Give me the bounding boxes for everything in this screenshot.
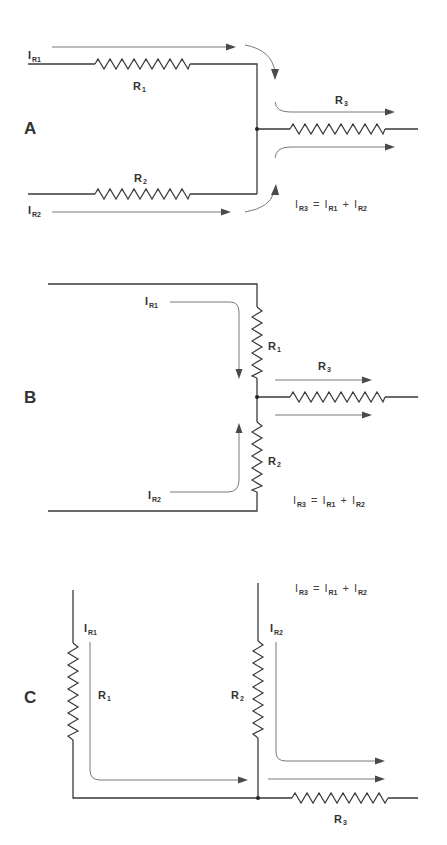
diagram-a-flow-r3-lower [275, 147, 385, 158]
diagram-c-resistor-r2 [253, 641, 263, 738]
diagram-b-current-i1-label: IR1 [145, 295, 158, 309]
diagram-a-r3-label: R3 [335, 94, 348, 107]
diagram-c: C IR3=IR1+IR2 IR1 IR2 R1 R2 R3 [24, 582, 418, 826]
diagram-b-r1-label: R1 [268, 340, 281, 353]
diagram-c-flow-i2 [276, 642, 375, 761]
diagram-c-resistor-r3 [292, 793, 388, 803]
diagram-c-r3-label: R3 [334, 813, 347, 826]
diagram-a-arrowhead [385, 109, 395, 116]
diagram-b-resistor-r3 [290, 392, 385, 402]
diagram-a-flow-r3-upper [275, 102, 385, 112]
diagram-a-arrowhead [226, 44, 236, 51]
diagram-b-resistor-r1 [252, 307, 262, 378]
diagram-c-current-i2-label: IR2 [270, 622, 283, 636]
diagram-b-equation: IR3=IR1+IR2 [293, 494, 365, 508]
diagram-a-resistor-r1 [95, 59, 190, 69]
diagram-a-equation: IR3=IR1+IR2 [295, 198, 367, 212]
diagram-b-junction-node [255, 395, 259, 399]
diagram-b-top-wire [48, 284, 257, 511]
diagram-c-r2-label: R2 [231, 689, 244, 702]
diagram-b-arrowhead [362, 377, 372, 384]
diagram-c-arrowhead [238, 777, 248, 784]
diagram-b-arrowhead [236, 369, 243, 379]
diagram-c-flow-i1 [90, 642, 238, 780]
diagram-a-resistor-r2 [95, 189, 190, 199]
diagram-c-equation: IR3=IR1+IR2 [295, 582, 367, 596]
diagram-a-label: A [24, 119, 36, 138]
diagram-b: B IR1 R1 R3 R2 IR2 IR3=IR1+IR2 [24, 284, 418, 511]
diagram-b-arrowhead [362, 412, 372, 419]
diagram-a-flow-i1-curve [245, 45, 275, 72]
diagram-a-resistor-r3 [290, 124, 385, 134]
diagram-c-middle-wire [258, 583, 418, 798]
diagram-c-current-i1-label: IR1 [84, 622, 97, 636]
diagram-a-flow-i2-curve [245, 192, 274, 212]
diagram-b-r2-label: R2 [268, 455, 281, 468]
diagram-a: A IR1 R1 R2 IR2 [24, 44, 418, 219]
diagram-b-flow-i2 [170, 432, 239, 492]
diagram-c-junction-node [256, 796, 260, 800]
circuit-diagrams: A IR1 R1 R2 IR2 [0, 0, 447, 845]
diagram-a-r1-label: R1 [133, 80, 146, 93]
diagram-a-top-wire [28, 64, 257, 194]
diagram-c-resistor-r1 [68, 643, 78, 740]
diagram-c-r1-label: R1 [98, 689, 111, 702]
diagram-b-arrowhead [236, 423, 243, 433]
diagram-c-arrowhead [375, 776, 385, 783]
diagram-a-junction-node [255, 127, 259, 131]
diagram-c-arrowhead [375, 758, 385, 765]
diagram-a-arrowhead [221, 209, 231, 216]
diagram-b-r3-label: R3 [318, 360, 331, 373]
diagram-a-current-i1-label: IR1 [28, 49, 41, 63]
diagram-a-arrowhead [385, 144, 395, 151]
diagram-b-flow-i1 [170, 302, 239, 370]
diagram-a-r2-label: R2 [134, 172, 147, 185]
diagram-a-arrowhead [271, 184, 279, 195]
diagram-a-current-i2-label: IR2 [28, 204, 41, 218]
diagram-b-current-i2-label: IR2 [148, 489, 161, 503]
diagram-b-label: B [24, 388, 36, 407]
diagram-c-label: C [24, 688, 36, 707]
diagram-a-arrowhead [271, 69, 279, 80]
diagram-b-resistor-r2 [252, 422, 262, 492]
